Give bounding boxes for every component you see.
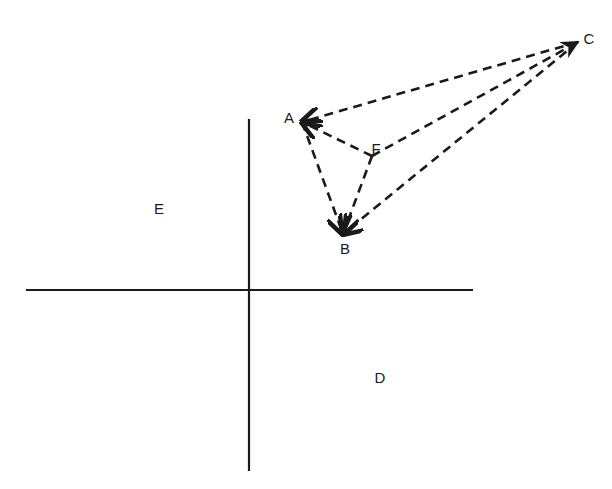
quadrant-axes	[26, 119, 473, 471]
point-label-b: B	[340, 241, 350, 256]
vector-c-a	[302, 42, 578, 122]
point-label-c: C	[584, 31, 595, 46]
vector-f-c	[372, 42, 578, 156]
point-label-f: F	[371, 141, 380, 156]
point-label-a: A	[284, 110, 294, 125]
vector-f-b	[343, 156, 372, 234]
vector-a-b	[302, 122, 343, 234]
vector-c-b	[343, 42, 578, 234]
region-label-d: D	[375, 370, 386, 385]
dashed-vectors	[302, 42, 578, 234]
diagram-canvas: E D A F B C	[0, 0, 612, 489]
region-label-e: E	[154, 201, 164, 216]
vector-diagram	[0, 0, 612, 489]
